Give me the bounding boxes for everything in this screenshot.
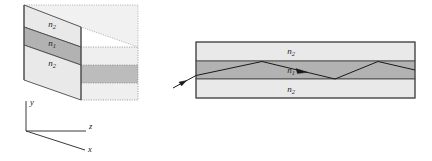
cs-upper-cladding	[196, 42, 415, 61]
coordinate-axes: y z x	[26, 97, 93, 154]
cs-incident-ray-arrowhead	[179, 81, 187, 86]
cs-core	[196, 61, 415, 79]
slab-core-subscript: 1	[53, 42, 56, 49]
waveguide-figure: n2 n1 n2 y z x	[0, 0, 432, 161]
x-axis-label: x	[87, 144, 92, 154]
z-axis-label: z	[88, 121, 93, 131]
cross-section-group: n2 n1 n2	[173, 42, 415, 98]
slab-back-core-fill	[81, 65, 138, 83]
slab-3d-hidden-edges	[81, 47, 138, 100]
y-axis-label: y	[29, 97, 34, 107]
figure-root: n2 n1 n2 y z x	[0, 0, 432, 161]
x-axis-line	[26, 131, 85, 150]
cs-lower-cladding	[196, 79, 415, 98]
cs-core-subscript: 1	[292, 69, 295, 76]
slab-3d-group: n2 n1 n2	[24, 5, 138, 100]
